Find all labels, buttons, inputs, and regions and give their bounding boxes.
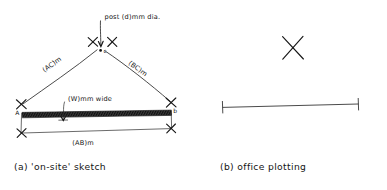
post-point-c bbox=[99, 49, 102, 52]
wall-width-leader bbox=[58, 102, 68, 121]
wall-band bbox=[22, 110, 172, 118]
side-line-bc bbox=[105, 51, 171, 102]
caption-panel-a: (a) 'on-site' sketch bbox=[14, 161, 106, 172]
baseline-dimension bbox=[17, 124, 176, 137]
caption-panel-b: (b) office plotting bbox=[220, 161, 306, 172]
label-post: post (d)mm dia. bbox=[105, 13, 161, 21]
figure-canvas: post (d)mm dia. (AC)m (BC)m (W)mm wide A… bbox=[0, 0, 387, 190]
post-leader-arrow bbox=[98, 21, 103, 47]
dim-extension-a bbox=[21, 113, 22, 134]
label-point-a: A bbox=[15, 109, 20, 116]
sketch-drawing: post (d)mm dia. (AC)m (BC)m (W)mm wide A… bbox=[0, 0, 387, 190]
plot-baseline bbox=[222, 98, 358, 113]
station-marker-a bbox=[16, 100, 26, 109]
label-wall-width: (W)mm wide bbox=[68, 95, 112, 103]
station-marker-c-left bbox=[88, 37, 97, 46]
label-baseline-ab: (AB)m bbox=[72, 139, 94, 147]
label-point-c: c bbox=[103, 48, 106, 54]
station-marker-c-right bbox=[108, 37, 117, 46]
label-point-b: b bbox=[173, 107, 177, 114]
label-side-ac: (AC)m bbox=[41, 55, 63, 74]
plot-station-marker bbox=[283, 36, 304, 59]
